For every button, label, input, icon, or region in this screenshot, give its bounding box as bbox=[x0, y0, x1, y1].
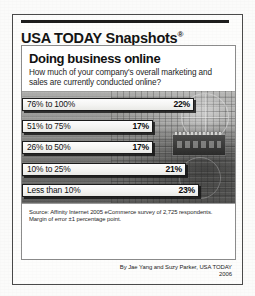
bar-value-label: 23% bbox=[172, 186, 195, 195]
byline-credit: By Jae Yang and Suzy Parker, USA TODAY bbox=[42, 264, 232, 271]
chart-question: How much of your company's overall marke… bbox=[29, 68, 228, 87]
bar: 76% to 100% 22% bbox=[22, 98, 194, 111]
bar-category-label: 76% to 100% bbox=[27, 100, 75, 109]
bar-value-label: 21% bbox=[159, 165, 182, 174]
bar-row: 51% to 75% 17% bbox=[22, 116, 235, 137]
bar-row: 10% to 25% 21% bbox=[22, 158, 235, 179]
bar-value-label: 17% bbox=[126, 122, 149, 131]
byline-year: 2006 bbox=[42, 271, 232, 278]
bar-category-label: 51% to 75% bbox=[27, 122, 71, 131]
bar-row: 26% to 50% 17% bbox=[22, 137, 235, 158]
masthead: USA TODAY Snapshots® bbox=[21, 20, 229, 47]
bar-row: 76% to 100% 22% bbox=[22, 94, 235, 115]
bar-category-label: 26% to 50% bbox=[27, 143, 71, 152]
chart-header: Doing business online How much of your c… bbox=[22, 46, 235, 91]
bar-row: Less than 10% 23% bbox=[22, 180, 235, 201]
bar-category-label: Less than 10% bbox=[27, 186, 80, 195]
masthead-title: USA TODAY Snapshots® bbox=[21, 26, 229, 47]
margin-of-error-line: Margin of error ±1 percentage point. bbox=[29, 216, 228, 223]
bar-category-label: 10% to 25% bbox=[27, 165, 71, 174]
graphic-outer-frame: USA TODAY Snapshots® Doing business onli… bbox=[12, 14, 243, 285]
plot-area: 76% to 100% 22% 51% to 75% 17% 26% to 50… bbox=[22, 91, 235, 203]
bar: 51% to 75% 17% bbox=[22, 120, 153, 133]
source-line: Source: Affinity Internet 2005 eCommerce… bbox=[29, 209, 228, 216]
bar-value-label: 17% bbox=[126, 143, 149, 152]
chart-panel: Doing business online How much of your c… bbox=[21, 45, 236, 260]
byline: By Jae Yang and Suzy Parker, USA TODAY 2… bbox=[42, 264, 232, 279]
bar-series: 76% to 100% 22% 51% to 75% 17% 26% to 50… bbox=[22, 91, 235, 203]
bar-value-label: 22% bbox=[167, 100, 190, 109]
masthead-title-text: USA TODAY Snapshots bbox=[21, 30, 177, 46]
bar: 26% to 50% 17% bbox=[22, 141, 153, 154]
masthead-rule bbox=[21, 20, 229, 23]
snapshot-graphic: USA TODAY Snapshots® Doing business onli… bbox=[0, 0, 255, 296]
bar: Less than 10% 23% bbox=[22, 184, 199, 197]
chart-title: Doing business online bbox=[29, 51, 228, 66]
source-block: Source: Affinity Internet 2005 eCommerce… bbox=[22, 203, 235, 260]
registered-trademark-icon: ® bbox=[177, 30, 183, 39]
bar: 10% to 25% 21% bbox=[22, 163, 186, 176]
